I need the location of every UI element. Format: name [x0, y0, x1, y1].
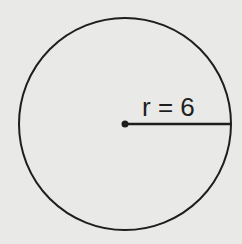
circle-diagram: r = 6 — [0, 0, 242, 244]
diagram-canvas: r = 6 — [0, 0, 242, 244]
center-point — [122, 121, 129, 128]
radius-label: r = 6 — [142, 92, 195, 122]
